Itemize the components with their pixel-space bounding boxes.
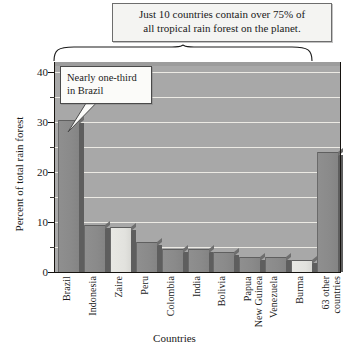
- bar-face: [240, 257, 260, 272]
- y-axis-title: Percent of total rain forest: [13, 99, 25, 249]
- y-tick-label: 0: [2, 267, 48, 278]
- y-tick-major: [48, 122, 55, 123]
- bar: [110, 227, 131, 272]
- y-tick-major: [48, 272, 55, 273]
- bar-cap: [85, 225, 105, 226]
- bar-face: [111, 227, 131, 272]
- bar: [84, 225, 105, 272]
- bar-face: [59, 120, 79, 273]
- bar-face: [266, 257, 286, 272]
- x-tick-label: India: [192, 276, 203, 297]
- x-tick-label: 63 other countries: [321, 276, 342, 314]
- bar-cap: [189, 249, 209, 250]
- x-tick-label: Brazil: [62, 276, 73, 301]
- bar-face: [163, 249, 183, 272]
- x-axis-title: Countries: [0, 332, 349, 344]
- x-tick-label: Indonesia: [88, 276, 99, 316]
- gridline: [55, 147, 340, 148]
- x-tick-label: Colombia: [166, 276, 177, 316]
- x-tick-label: Venezuela: [269, 276, 280, 318]
- y-tick-minor: [50, 247, 55, 248]
- bar: [136, 242, 157, 272]
- bar: [213, 252, 234, 272]
- bar-cap: [318, 152, 338, 153]
- x-axis-line: [54, 272, 341, 273]
- x-tick-label: Papua New Guinea: [243, 276, 264, 327]
- bar-cap: [266, 257, 286, 258]
- x-tick-label: Burma: [295, 276, 306, 304]
- bar-cap: [292, 260, 312, 261]
- y-tick-label: 20: [2, 167, 48, 178]
- brazil-callout-box: Nearly one-third in Brazil: [60, 66, 152, 104]
- bar: [291, 260, 312, 273]
- x-tick-label: Bolivia: [217, 276, 228, 306]
- bar: [239, 257, 260, 272]
- bar-face: [137, 242, 157, 272]
- bar-face: [214, 252, 234, 272]
- bar-cap: [111, 227, 131, 228]
- bar: [317, 152, 338, 272]
- bar-cap: [214, 252, 234, 253]
- brazil-callout-line-2: in Brazil: [67, 85, 103, 96]
- bar-face: [292, 260, 312, 273]
- bar: [188, 249, 209, 272]
- y-tick-label: 10: [2, 217, 48, 228]
- bar: [58, 120, 79, 273]
- gridline: [55, 222, 340, 223]
- chart-title-line-2: all tropical rain forest on the planet.: [119, 22, 325, 36]
- bar: [265, 257, 286, 272]
- chart-title-box: Just 10 countries contain over 75% of al…: [112, 3, 332, 42]
- bar-face: [189, 249, 209, 272]
- gridline: [55, 172, 340, 173]
- y-tick-minor: [50, 197, 55, 198]
- top-brace-icon: [52, 44, 314, 62]
- y-tick-minor: [50, 147, 55, 148]
- y-tick-major: [48, 222, 55, 223]
- y-axis-line: [54, 62, 55, 273]
- y-tick-major: [48, 172, 55, 173]
- chart-title-line-1: Just 10 countries contain over 75% of: [119, 8, 325, 22]
- y-tick-label: 40: [2, 67, 48, 78]
- brazil-callout-line-1: Nearly one-third: [67, 72, 137, 83]
- y-tick-minor: [50, 97, 55, 98]
- bar-cap: [137, 242, 157, 243]
- bar-cap: [163, 249, 183, 250]
- bar-face: [318, 152, 338, 272]
- plot-right-border: [340, 62, 341, 273]
- y-tick-label: 30: [2, 117, 48, 128]
- gridline: [55, 197, 340, 198]
- rain-forest-bar-chart: Just 10 countries contain over 75% of al…: [0, 0, 349, 353]
- y-tick-major: [48, 72, 55, 73]
- bar-face: [85, 225, 105, 272]
- bar: [162, 249, 183, 272]
- bar-cap: [240, 257, 260, 258]
- x-tick-label: Zaire: [114, 276, 125, 298]
- x-tick-label: Peru: [140, 276, 151, 295]
